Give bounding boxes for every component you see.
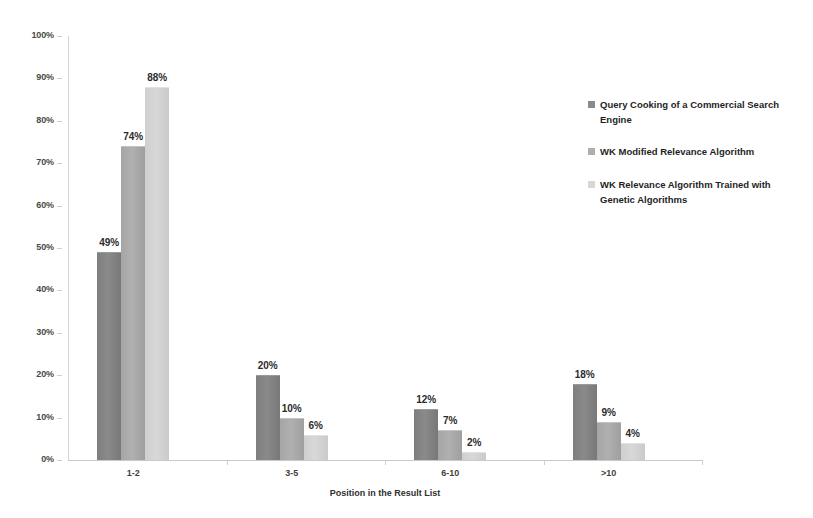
legend-item[interactable]: Query Cooking of a Commercial Search Eng…	[588, 98, 803, 127]
bar-fill	[621, 443, 645, 460]
y-axis-tick-mark	[57, 418, 62, 419]
bar-group: 20%10%6%	[256, 36, 328, 460]
x-axis-title: Position in the Result List	[68, 488, 702, 498]
bar-value-label: 6%	[309, 420, 323, 431]
y-axis-tick-label: 10%	[36, 412, 54, 422]
bar-chart: 0%10%20%30%40%50%60%70%80%90%100% 49%74%…	[0, 0, 813, 518]
y-axis-tick-mark	[57, 206, 62, 207]
bar-fill	[256, 375, 280, 460]
y-axis-tick-label: 80%	[36, 115, 54, 125]
y-axis-tick-label: 0%	[41, 454, 54, 464]
bar[interactable]: 7%	[438, 430, 462, 460]
y-axis-tick-label: 30%	[36, 327, 54, 337]
legend-label: WK Modified Relevance Algorithm	[600, 145, 754, 160]
bar[interactable]: 6%	[304, 435, 328, 460]
bar-value-label: 9%	[602, 407, 616, 418]
bar-fill	[121, 146, 145, 460]
legend-item[interactable]: WK Relevance Algorithm Trained with Gene…	[588, 178, 803, 207]
legend-swatch-icon	[588, 101, 595, 108]
y-axis-tick-mark	[57, 375, 62, 376]
legend-label: Query Cooking of a Commercial Search Eng…	[600, 98, 803, 127]
bar-value-label: 12%	[416, 394, 436, 405]
bar[interactable]: 4%	[621, 443, 645, 460]
legend-swatch-icon	[588, 148, 595, 155]
bar[interactable]: 18%	[573, 384, 597, 460]
bar-fill	[280, 418, 304, 460]
legend-swatch-icon	[588, 181, 595, 188]
bar-fill	[573, 384, 597, 460]
bar-value-label: 18%	[575, 369, 595, 380]
y-axis-tick-mark	[57, 121, 62, 122]
y-axis-tick-mark	[57, 290, 62, 291]
legend-label: WK Relevance Algorithm Trained with Gene…	[600, 178, 803, 207]
y-axis-tick-mark	[57, 333, 62, 334]
bar[interactable]: 88%	[145, 87, 169, 460]
bar-value-label: 7%	[443, 415, 457, 426]
bar-fill	[145, 87, 169, 460]
bar-fill	[462, 452, 486, 460]
bar-value-label: 20%	[258, 360, 278, 371]
y-axis-tick-mark	[57, 460, 62, 461]
bar-value-label: 88%	[147, 72, 167, 83]
bar-fill	[597, 422, 621, 460]
y-axis-tick-label: 70%	[36, 157, 54, 167]
y-axis-tick-mark	[57, 78, 62, 79]
x-axis-tick-mark	[385, 460, 386, 465]
bar-fill	[304, 435, 328, 460]
legend-item[interactable]: WK Modified Relevance Algorithm	[588, 145, 803, 160]
bar[interactable]: 20%	[256, 375, 280, 460]
bar-group: 49%74%88%	[97, 36, 169, 460]
x-axis-tick-mark	[702, 460, 703, 465]
bar-value-label: 2%	[467, 437, 481, 448]
y-axis-tick-label: 90%	[36, 72, 54, 82]
bar-fill	[97, 252, 121, 460]
y-axis-tick-label: 100%	[31, 30, 54, 40]
bar[interactable]: 2%	[462, 452, 486, 460]
bar-value-label: 4%	[626, 428, 640, 439]
y-axis-tick-mark	[57, 248, 62, 249]
bar-value-label: 74%	[123, 131, 143, 142]
x-axis-tick-label: 6-10	[441, 468, 459, 478]
x-axis-tick-label: 3-5	[285, 468, 298, 478]
x-axis-tick-mark	[544, 460, 545, 465]
y-axis-tick-mark	[57, 36, 62, 37]
y-axis-tick-label: 40%	[36, 284, 54, 294]
y-axis-tick-mark	[57, 163, 62, 164]
y-axis-tick-label: 20%	[36, 369, 54, 379]
bar-fill	[438, 430, 462, 460]
bar-value-label: 10%	[282, 403, 302, 414]
bar[interactable]: 49%	[97, 252, 121, 460]
bar-fill	[414, 409, 438, 460]
bar[interactable]: 10%	[280, 418, 304, 460]
bar[interactable]: 74%	[121, 146, 145, 460]
bar-group: 12%7%2%	[414, 36, 486, 460]
bar[interactable]: 12%	[414, 409, 438, 460]
y-axis-tick-label: 50%	[36, 242, 54, 252]
x-axis-tick-mark	[227, 460, 228, 465]
x-axis-tick-label: >10	[601, 468, 616, 478]
bar[interactable]: 9%	[597, 422, 621, 460]
y-axis-tick-label: 60%	[36, 200, 54, 210]
bar-value-label: 49%	[99, 237, 119, 248]
chart-legend: Query Cooking of a Commercial Search Eng…	[588, 98, 803, 226]
x-axis-tick-label: 1-2	[127, 468, 140, 478]
